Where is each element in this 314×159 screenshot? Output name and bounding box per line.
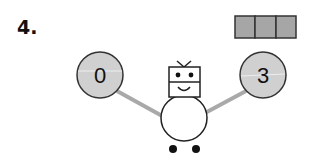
answer-box-2[interactable] [255, 16, 276, 38]
number-bond-scene: 0 3 [0, 0, 314, 159]
right-arm-line [205, 91, 246, 113]
left-arm-line [117, 91, 164, 117]
answer-boxes [235, 16, 296, 38]
right-number-circle: 3 [240, 52, 286, 98]
right-number: 3 [257, 63, 269, 88]
left-number-circle: 0 [77, 52, 123, 98]
answer-box-1[interactable] [235, 16, 255, 38]
answer-box-3[interactable] [276, 16, 296, 38]
left-number: 0 [94, 63, 106, 88]
robot-icon [161, 61, 207, 153]
